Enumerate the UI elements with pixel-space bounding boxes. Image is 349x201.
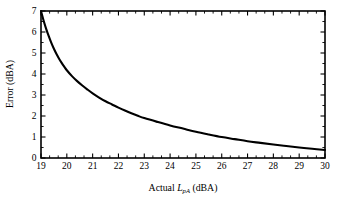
x-axis-tick-labels: 192021222324252627282930 <box>36 161 330 171</box>
x-tick-label: 30 <box>320 161 330 171</box>
x-tick-label: 25 <box>191 161 201 171</box>
x-tick-label: 26 <box>217 161 227 171</box>
y-tick-label: 6 <box>32 27 37 37</box>
chart-figure: 192021222324252627282930 01234567 Actual… <box>0 0 349 201</box>
x-tick-label: 23 <box>140 161 150 171</box>
y-tick-label: 2 <box>32 111 37 121</box>
x-tick-label: 27 <box>243 161 253 171</box>
x-tick-label: 20 <box>62 161 72 171</box>
error-vs-actual-level-chart: 192021222324252627282930 01234567 Actual… <box>0 0 349 201</box>
error-curve <box>41 11 325 150</box>
y-tick-label: 5 <box>32 48 37 58</box>
x-tick-label: 29 <box>294 161 304 171</box>
y-tick-label: 7 <box>32 6 37 16</box>
x-tick-label: 21 <box>88 161 98 171</box>
x-tick-label: 22 <box>114 161 124 171</box>
x-tick-label: 24 <box>165 161 175 171</box>
plot-frame <box>41 11 325 158</box>
x-tick-label: 28 <box>269 161 279 171</box>
y-tick-label: 0 <box>32 153 37 163</box>
y-tick-label: 3 <box>32 90 37 100</box>
y-tick-label: 1 <box>32 132 37 142</box>
y-axis-title: Error (dBA) <box>4 60 16 108</box>
y-axis-tick-labels: 01234567 <box>32 6 37 163</box>
x-tick-label: 19 <box>36 161 46 171</box>
x-axis-title: Actual LpA (dBA) <box>149 182 218 194</box>
y-tick-label: 4 <box>32 69 37 79</box>
